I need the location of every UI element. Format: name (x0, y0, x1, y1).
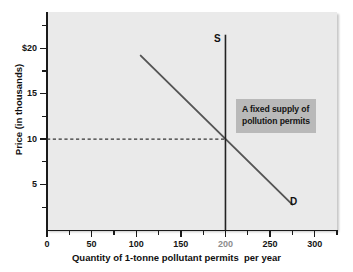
chart-curves (0, 0, 353, 272)
fixed-supply-callout: A fixed supply of pollution permits (236, 99, 316, 133)
chart-figure: $2015105050100150200250300 S D A fixed s… (0, 0, 353, 272)
callout-line-1: A fixed supply of (242, 103, 310, 115)
supply-curve-label: S (214, 33, 221, 44)
callout-line-2: pollution permits (242, 115, 310, 127)
y-axis-title: Price (in thousands) (13, 40, 24, 180)
x-axis-title: Quantity of 1-tonne pollutant permits pe… (0, 252, 353, 263)
demand-curve-label: D (290, 196, 297, 207)
